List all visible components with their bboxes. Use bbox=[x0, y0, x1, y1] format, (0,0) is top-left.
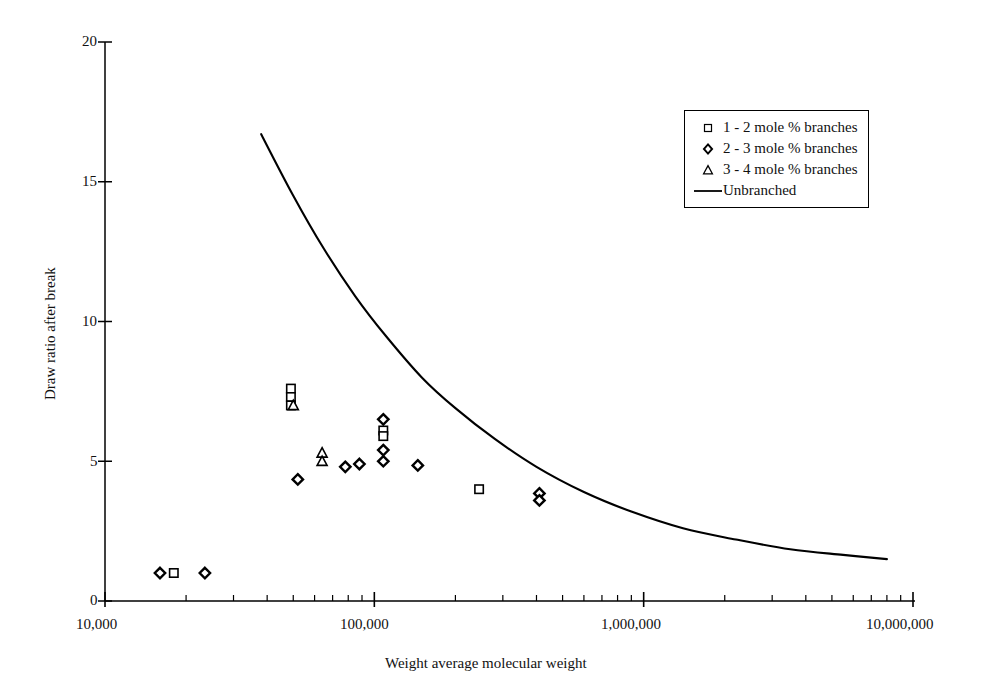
legend-label: 1 - 2 mole % branches bbox=[723, 119, 858, 136]
y-tick-label-5: 5 bbox=[90, 453, 98, 470]
legend-label: 2 - 3 mole % branches bbox=[723, 140, 858, 157]
open-triangle-icon bbox=[693, 163, 723, 177]
data-point-open-diamond bbox=[413, 460, 423, 470]
data-point-open-diamond bbox=[378, 456, 388, 466]
legend-item-3-4-mole: 3 - 4 mole % branches bbox=[693, 159, 858, 180]
y-tick-label-0: 0 bbox=[90, 592, 98, 609]
legend-item-2-3-mole: 2 - 3 mole % branches bbox=[693, 138, 858, 159]
legend-label: 3 - 4 mole % branches bbox=[723, 161, 858, 178]
legend-item-unbranched: Unbranched bbox=[693, 180, 858, 201]
data-point-open-square bbox=[170, 569, 178, 577]
y-axis-title: Draw ratio after break bbox=[42, 267, 59, 400]
data-marker-layer bbox=[155, 384, 545, 578]
data-point-open-diamond bbox=[354, 459, 364, 469]
data-point-open-diamond bbox=[155, 568, 165, 579]
legend-label: Unbranched bbox=[723, 182, 796, 199]
y-tick-label-10: 10 bbox=[82, 313, 97, 330]
data-point-open-square bbox=[379, 432, 387, 440]
open-diamond-icon bbox=[693, 142, 723, 156]
data-point-open-diamond bbox=[534, 495, 544, 505]
data-point-open-diamond bbox=[340, 462, 350, 472]
chart-figure: 20 15 10 5 0 Draw ratio after break 10,0… bbox=[0, 0, 988, 699]
y-tick-label-15: 15 bbox=[82, 173, 97, 190]
legend-item-1-2-mole: 1 - 2 mole % branches bbox=[693, 117, 858, 138]
x-tick-label-100000: 100,000 bbox=[340, 616, 389, 633]
data-point-open-square bbox=[287, 384, 295, 392]
y-tick-label-20: 20 bbox=[82, 33, 97, 50]
data-point-open-diamond bbox=[200, 568, 210, 579]
data-point-open-diamond bbox=[293, 474, 303, 484]
open-square-icon bbox=[693, 121, 723, 135]
data-point-open-diamond bbox=[378, 445, 388, 455]
plot-canvas bbox=[0, 0, 988, 699]
data-point-open-square bbox=[475, 485, 483, 493]
x-tick-label-10000000: 10,000,000 bbox=[866, 616, 934, 633]
x-tick-label-1000000: 1,000,000 bbox=[601, 616, 661, 633]
x-tick-label-10000: 10,000 bbox=[76, 616, 117, 633]
x-axis-title: Weight average molecular weight bbox=[385, 655, 587, 672]
data-point-open-diamond bbox=[378, 414, 388, 424]
chart-legend: 1 - 2 mole % branches 2 - 3 mole % branc… bbox=[684, 110, 869, 208]
line-sample-icon bbox=[693, 185, 723, 197]
